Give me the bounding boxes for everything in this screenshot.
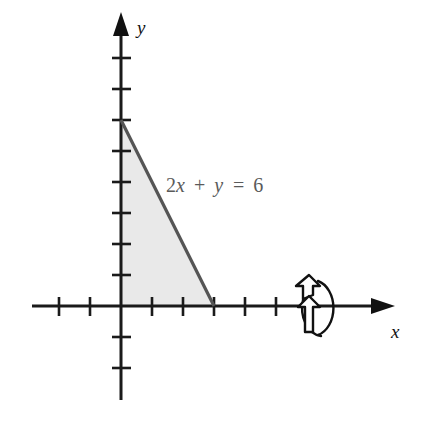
equation-coefficient: 2	[166, 174, 176, 196]
x-axis-arrowhead	[371, 298, 395, 314]
equation-y-var: y	[212, 174, 223, 197]
equation-label-group: 2x+y=6	[166, 174, 263, 197]
equation-label: 2x+y=6	[166, 174, 263, 197]
y-axis-label: y	[135, 17, 146, 38]
axes-group	[32, 12, 395, 400]
equation-constant: 6	[253, 174, 263, 196]
x-axis-label: x	[390, 321, 400, 342]
coordinate-plane-svg: y x 2x+y=6	[0, 0, 426, 429]
equation-plus: +	[194, 174, 205, 196]
equation-equals: =	[233, 174, 244, 196]
figure-canvas: y x 2x+y=6	[0, 0, 426, 429]
equation-x-var: x	[175, 174, 185, 196]
y-axis-arrowhead	[113, 12, 129, 36]
